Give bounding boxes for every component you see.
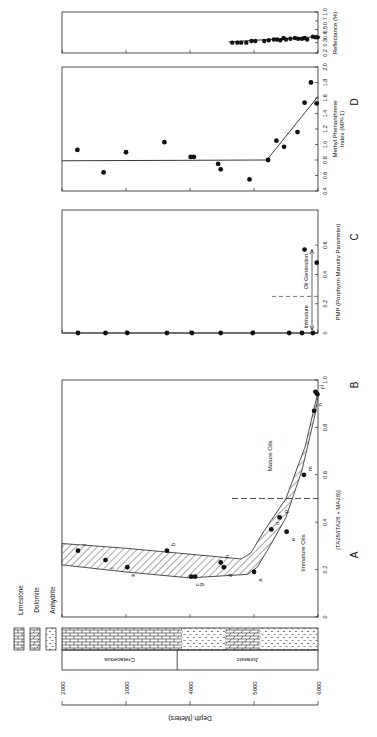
panel-c-axis-title-line1: Methyl Phenanthrene: [332, 100, 338, 158]
value-tick-label: 0.8: [322, 156, 328, 164]
value-tick-label: 1.4: [322, 110, 328, 118]
data-point: [288, 37, 292, 41]
value-tick-label: 0.4: [322, 187, 328, 195]
panel-a-axis-title: [TA28/(TA28 + MA29)]: [335, 490, 341, 550]
point-label: a: [257, 578, 263, 582]
data-point: [287, 331, 292, 336]
point-label: n: [317, 403, 323, 406]
data-point: [252, 570, 257, 575]
data-point: [277, 515, 282, 520]
trend-envelope: [62, 392, 318, 578]
point-label: g: [198, 583, 204, 586]
value-tick-label: 0.5: [322, 26, 328, 34]
panel-d-axis-title: Reflectance (%): [332, 12, 338, 55]
data-point: [165, 331, 170, 336]
lithology-dolomite: [177, 628, 182, 650]
annotation-immature: Immature: [303, 305, 309, 328]
data-point: [218, 331, 223, 336]
trend-line: [62, 96, 318, 160]
data-point: [222, 565, 227, 570]
point-label: l: [109, 567, 115, 568]
data-point: [284, 529, 289, 534]
point-label: b: [170, 542, 176, 546]
data-point: [267, 38, 271, 42]
period-cretaceous: Cretaceous: [104, 657, 135, 663]
data-point: [235, 40, 239, 44]
data-point: [244, 40, 248, 44]
plot-layer: [62, 12, 320, 705]
value-tick-label: 0.4: [322, 271, 328, 279]
data-point: [282, 144, 287, 149]
value-tick-label: 1.8: [322, 79, 328, 87]
lithology-column: [62, 628, 318, 650]
panel-label-d: D: [349, 98, 360, 105]
value-tick-label: 0.6: [322, 172, 328, 180]
panel-label-b: B: [349, 381, 360, 388]
data-point: [314, 101, 319, 106]
data-point: [103, 331, 108, 336]
value-tick-label: 0.4: [322, 518, 328, 526]
data-point: [302, 100, 307, 105]
data-point: [250, 331, 255, 336]
data-point: [190, 331, 195, 336]
period-column: [62, 650, 318, 670]
lithology-anhydrite: [260, 628, 318, 650]
legend-label-limestone: Limestone: [17, 585, 24, 615]
panel-c-frame: [62, 67, 318, 191]
data-point: [310, 331, 315, 336]
value-tick-label: 0.7: [322, 17, 328, 25]
panel-b-frame: [62, 210, 318, 333]
lithology-anhydrite: [182, 628, 225, 650]
depth-tick-label: 5000: [252, 681, 258, 695]
data-point: [165, 548, 170, 553]
legend-label-anhydrite: Anhydrite: [49, 586, 57, 614]
panel-b-axis-title: PMP (Porphyrin Maturity Parameter): [335, 224, 341, 321]
data-point: [300, 331, 305, 336]
data-point: [249, 39, 253, 43]
text-layer: 20003000400050006000Depth (Meters)00.20.…: [14, 8, 360, 722]
lithology-dolomite: [225, 628, 260, 650]
panel-label-a: A: [349, 551, 360, 558]
data-point: [305, 37, 309, 41]
data-point: [284, 37, 288, 41]
point-label: e: [290, 537, 296, 541]
value-tick-label: 0.8: [322, 424, 328, 432]
legend-swatch-dolomite: [30, 628, 40, 650]
data-point: [75, 148, 80, 153]
value-tick-label: 0: [322, 615, 328, 618]
point-label: j: [318, 385, 324, 387]
data-point: [266, 158, 271, 163]
data-point: [125, 331, 130, 336]
panel-d-frame: [62, 12, 318, 53]
point-label: k: [130, 573, 136, 577]
lithology-limestone: [62, 628, 177, 650]
value-tick-label: 0.6: [322, 471, 328, 479]
data-point: [269, 527, 274, 532]
annotation-oil-generation: Oil Generation: [303, 254, 309, 289]
data-point: [315, 392, 320, 397]
value-tick-label: 1.0: [322, 376, 328, 384]
data-point: [230, 40, 234, 44]
value-tick-label: 1.6: [322, 94, 328, 102]
data-point: [315, 35, 319, 39]
legend-swatch-limestone: [14, 628, 24, 650]
data-point: [191, 155, 196, 160]
data-point: [312, 408, 317, 413]
value-tick-label: 0.6: [322, 241, 328, 249]
value-tick-label: 1.2: [322, 125, 328, 133]
depth-tick-label: 2000: [60, 681, 66, 695]
data-point: [76, 548, 81, 553]
data-point: [125, 565, 130, 570]
value-tick-label: 0.2: [322, 566, 328, 574]
point-label: h: [224, 555, 230, 558]
data-point: [101, 170, 106, 175]
data-point: [218, 167, 223, 172]
legend-swatch-anhydrite: [46, 628, 56, 650]
value-tick-label: 2.0: [322, 63, 328, 71]
value-tick-label: 0.2: [322, 49, 328, 57]
point-label: i: [81, 544, 87, 545]
data-point: [247, 177, 252, 182]
data-point: [162, 140, 167, 145]
annotation-immature-oils: Immature Oils: [300, 534, 306, 571]
figure: 20003000400050006000Depth (Meters)00.20.…: [0, 0, 377, 737]
